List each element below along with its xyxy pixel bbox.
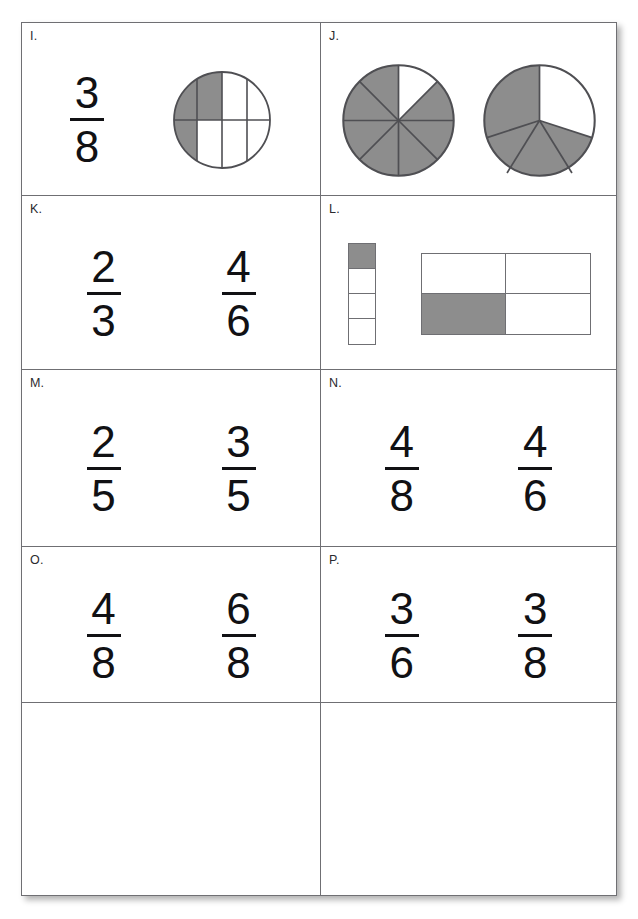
bar-segment bbox=[349, 319, 375, 344]
fraction-numerator: 3 bbox=[223, 420, 253, 466]
cell-label-p: P. bbox=[329, 553, 340, 567]
bar-model-1-4-strip bbox=[348, 243, 376, 345]
fraction-3-6: 3 6 bbox=[385, 587, 419, 685]
cell-body-o: 4 8 6 8 bbox=[22, 569, 320, 702]
cell-body-n: 4 8 4 6 bbox=[321, 392, 616, 546]
worksheet-cell-j[interactable]: J. bbox=[321, 23, 616, 196]
cell-label-l: L. bbox=[329, 202, 340, 216]
cell-body-m: 2 5 3 5 bbox=[22, 392, 320, 546]
circle-model-4-5 bbox=[482, 63, 597, 178]
cell-body-l bbox=[321, 218, 616, 369]
fraction-bar bbox=[87, 634, 121, 637]
fraction-denominator: 6 bbox=[387, 639, 417, 685]
fraction-3-8: 3 8 bbox=[518, 587, 552, 685]
fraction-denominator: 8 bbox=[223, 639, 253, 685]
fraction-denominator: 8 bbox=[520, 639, 550, 685]
worksheet-cell-blank-right[interactable] bbox=[321, 703, 616, 895]
fraction-numerator: 4 bbox=[223, 245, 253, 291]
cell-body-k: 2 3 4 6 bbox=[22, 218, 320, 369]
fraction-denominator: 6 bbox=[223, 297, 253, 343]
bar-segment bbox=[349, 269, 375, 294]
fraction-bar bbox=[222, 292, 256, 295]
cell-body-i: 3 8 bbox=[22, 45, 320, 195]
bar-segment bbox=[422, 254, 506, 294]
fraction-numerator: 2 bbox=[88, 245, 118, 291]
fraction-numerator: 2 bbox=[88, 420, 118, 466]
fraction-denominator: 8 bbox=[72, 123, 102, 169]
bar-segment bbox=[422, 294, 506, 334]
fraction-6-8: 6 8 bbox=[222, 587, 256, 685]
bar-segment bbox=[349, 244, 375, 269]
bar-model-1-4-grid bbox=[421, 253, 591, 335]
worksheet-cell-n[interactable]: N. 4 8 4 6 bbox=[321, 370, 616, 547]
worksheet-cell-p[interactable]: P. 3 6 3 8 bbox=[321, 547, 616, 703]
fraction-4-6: 4 6 bbox=[222, 245, 256, 343]
fraction-bar bbox=[385, 634, 419, 637]
fraction-4-6: 4 6 bbox=[518, 420, 552, 518]
fraction-numerator: 3 bbox=[72, 71, 102, 117]
cell-label-i: I. bbox=[30, 29, 37, 43]
fraction-denominator: 5 bbox=[223, 472, 253, 518]
cell-label-m: M. bbox=[30, 376, 44, 390]
bar-segment bbox=[506, 294, 590, 334]
fraction-2-3: 2 3 bbox=[87, 245, 121, 343]
fraction-numerator: 3 bbox=[387, 587, 417, 633]
fraction-numerator: 4 bbox=[387, 420, 417, 466]
fraction-denominator: 5 bbox=[88, 472, 118, 518]
cell-label-o: O. bbox=[30, 553, 44, 567]
bar-segment bbox=[506, 254, 590, 294]
cell-label-j: J. bbox=[329, 29, 339, 43]
cell-label-n: N. bbox=[329, 376, 342, 390]
circle-model-3-8 bbox=[172, 70, 272, 170]
worksheet-cell-i[interactable]: I. 3 8 bbox=[22, 23, 321, 196]
fraction-bar bbox=[222, 634, 256, 637]
worksheet-cell-blank-left[interactable] bbox=[22, 703, 321, 895]
cell-body-p: 3 6 3 8 bbox=[321, 569, 616, 702]
worksheet-cell-k[interactable]: K. 2 3 4 6 bbox=[22, 196, 321, 370]
fraction-denominator: 3 bbox=[88, 297, 118, 343]
cell-body-j bbox=[321, 45, 616, 195]
fraction-denominator: 8 bbox=[387, 472, 417, 518]
worksheet-page: I. 3 8 bbox=[21, 22, 617, 896]
clipped-header-strip bbox=[0, 0, 638, 18]
fraction-bar bbox=[385, 467, 419, 470]
fraction-3-8: 3 8 bbox=[70, 71, 104, 169]
fraction-4-8: 4 8 bbox=[87, 587, 121, 685]
cell-label-k: K. bbox=[30, 202, 42, 216]
fraction-3-5: 3 5 bbox=[222, 420, 256, 518]
fraction-denominator: 8 bbox=[88, 639, 118, 685]
fraction-numerator: 3 bbox=[520, 587, 550, 633]
fraction-bar bbox=[222, 467, 256, 470]
fraction-bar bbox=[70, 118, 104, 121]
fraction-bar bbox=[87, 467, 121, 470]
fraction-2-5: 2 5 bbox=[87, 420, 121, 518]
fraction-bar bbox=[87, 292, 121, 295]
circle-model-7-8 bbox=[341, 63, 456, 178]
fraction-4-8: 4 8 bbox=[385, 420, 419, 518]
fraction-bar bbox=[518, 467, 552, 470]
fraction-denominator: 6 bbox=[520, 472, 550, 518]
worksheet-grid: I. 3 8 bbox=[22, 23, 616, 895]
fraction-numerator: 4 bbox=[520, 420, 550, 466]
bar-segment bbox=[349, 294, 375, 319]
fraction-bar bbox=[518, 634, 552, 637]
worksheet-cell-o[interactable]: O. 4 8 6 8 bbox=[22, 547, 321, 703]
fraction-numerator: 6 bbox=[223, 587, 253, 633]
worksheet-cell-l[interactable]: L. bbox=[321, 196, 616, 370]
worksheet-cell-m[interactable]: M. 2 5 3 5 bbox=[22, 370, 321, 547]
fraction-numerator: 4 bbox=[88, 587, 118, 633]
